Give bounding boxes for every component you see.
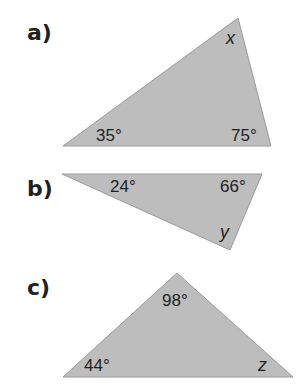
problem-c: c) 98° 44° z bbox=[27, 273, 293, 377]
problem-b: b) 24° 66° y bbox=[27, 174, 262, 250]
unknown-angle-z: z bbox=[257, 355, 267, 375]
part-label-b: b) bbox=[27, 176, 53, 201]
angle-label-44: 44° bbox=[84, 356, 110, 375]
angle-label-35: 35° bbox=[96, 126, 122, 145]
part-label-c: c) bbox=[27, 275, 50, 300]
angle-label-98: 98° bbox=[162, 291, 188, 310]
angle-label-24: 24° bbox=[110, 177, 136, 196]
angle-label-66: 66° bbox=[220, 177, 246, 196]
unknown-angle-y: y bbox=[218, 222, 230, 242]
unknown-angle-x: x bbox=[225, 28, 236, 48]
angle-label-75: 75° bbox=[231, 126, 257, 145]
angle-problems-diagram: a) 35° 75° x b) 24° 66° y c) 98° 44° z bbox=[0, 0, 303, 387]
part-label-a: a) bbox=[27, 20, 52, 45]
problem-a: a) 35° 75° x bbox=[27, 18, 271, 146]
